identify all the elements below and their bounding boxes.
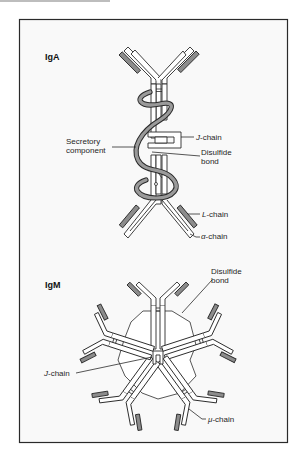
alpha-chain-lower-left-stem-outer xyxy=(151,155,156,200)
label-mu-chain: μ-chain xyxy=(207,415,234,424)
label-alpha-chain: α-chain xyxy=(201,232,227,241)
label-disulfide-igm-line2: bond xyxy=(211,276,229,285)
mu-chain-stem-left xyxy=(151,305,156,349)
label-l-chain: L-chain xyxy=(202,210,228,219)
label-disulfide-igm-line1: Disulfide xyxy=(211,267,242,276)
igm-title: IgM xyxy=(45,280,61,290)
label-disulfide-iga-line2: bond xyxy=(201,157,219,166)
label-disulfide-iga-line1: Disulfide xyxy=(201,148,232,157)
label-secretory-line1: Secretory xyxy=(66,137,100,146)
mu-chain-stem-right xyxy=(160,305,165,349)
immunoglobulin-diagram: IgA xyxy=(0,0,303,456)
label-j-chain-iga: J-chain xyxy=(195,133,222,142)
iga-title: IgA xyxy=(45,52,60,62)
label-j-chain-igm: J-chain xyxy=(43,369,70,378)
label-secretory-line2: component xyxy=(66,146,106,155)
alpha-chain-lower-left-stem xyxy=(156,155,161,194)
